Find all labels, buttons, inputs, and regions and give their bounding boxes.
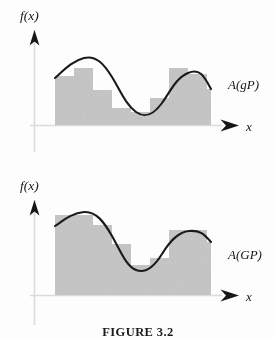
step-rectangles-upper [50, 210, 220, 300]
area-label-lower: A(gP) [227, 77, 259, 92]
x-axis-label: x [245, 289, 252, 304]
x-axis-arrowhead-icon [221, 290, 240, 302]
x-axis-label: x [245, 119, 252, 134]
figure-caption: FIGURE 3.2 [0, 325, 276, 338]
y-axis-label: f(x) [20, 178, 39, 193]
x-axis-arrowhead-icon [221, 120, 240, 132]
area-label-upper: A(GP) [227, 247, 262, 262]
figure-root: f(x) x A(gP) [0, 0, 276, 338]
chart-lower-sum: f(x) x A(gP) [0, 0, 276, 170]
y-axis-label: f(x) [20, 8, 39, 23]
chart-upper-sum: f(x) x A(GP) [0, 170, 276, 338]
step-rectangles-lower [50, 60, 220, 130]
